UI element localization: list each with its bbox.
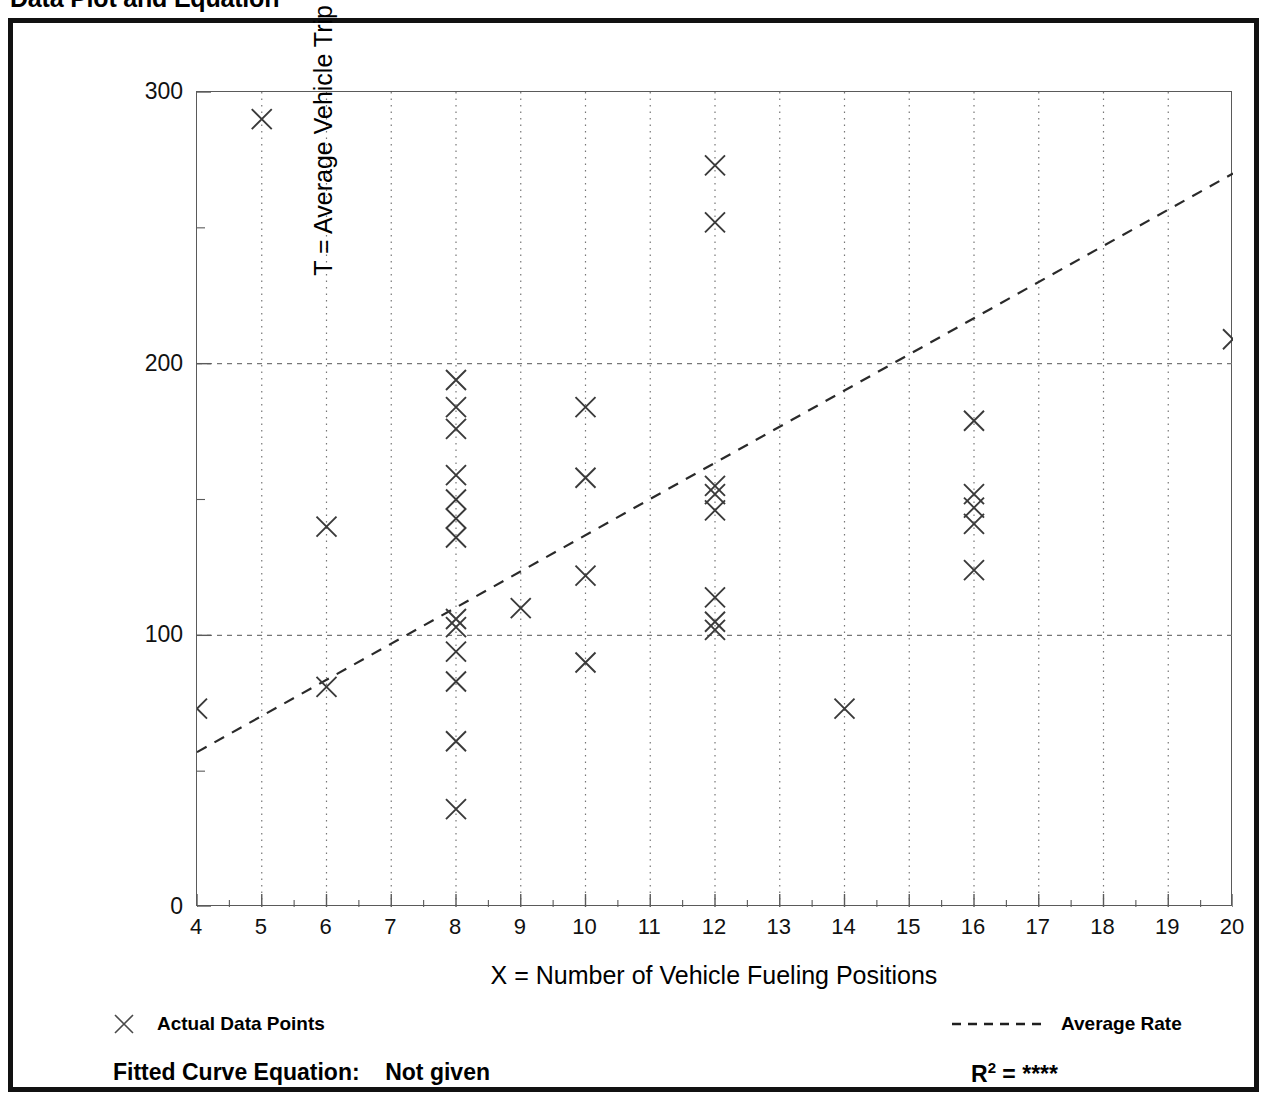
r-squared-value: R2 = ****	[971, 1059, 1058, 1088]
x-tick-label-14: 14	[831, 914, 855, 940]
x-marker-icon	[113, 1013, 135, 1035]
fitted-curve-equation: Fitted Curve Equation: Not given	[113, 1059, 490, 1086]
x-tick-label-5: 5	[255, 914, 267, 940]
x-tick-label-4: 4	[190, 914, 202, 940]
y-axis-title: T = Average Vehicle Trip Ends	[309, 0, 349, 516]
legend: Actual Data Points Average Rate	[13, 1013, 1254, 1047]
x-tick-label-17: 17	[1026, 914, 1050, 940]
y-axis-tick-labels: 0100200300	[113, 91, 183, 906]
r-squared-label: R	[971, 1061, 988, 1087]
y-tick-label-200: 200	[145, 350, 183, 377]
r-squared-equals: =	[1002, 1061, 1015, 1087]
r-squared-exponent: 2	[988, 1059, 996, 1076]
x-tick-label-8: 8	[449, 914, 461, 940]
y-tick-label-0: 0	[170, 893, 183, 920]
x-tick-label-11: 11	[638, 914, 661, 940]
x-tick-label-6: 6	[319, 914, 331, 940]
y-tick-label-100: 100	[145, 621, 183, 648]
footer: Fitted Curve Equation: Not given R2 = **…	[13, 1059, 1254, 1099]
fitted-curve-equation-value: Not given	[385, 1059, 490, 1085]
x-tick-label-12: 12	[702, 914, 726, 940]
x-tick-label-18: 18	[1090, 914, 1114, 940]
legend-item-actual-data-points: Actual Data Points	[113, 1013, 325, 1035]
x-tick-label-16: 16	[961, 914, 985, 940]
x-tick-label-7: 7	[384, 914, 396, 940]
fitted-curve-equation-label: Fitted Curve Equation:	[113, 1059, 360, 1085]
x-tick-label-19: 19	[1155, 914, 1179, 940]
legend-item-average-rate: Average Rate	[951, 1013, 1182, 1035]
axis-tick-marks	[197, 92, 1233, 907]
scatter-plot-svg	[197, 92, 1233, 907]
x-axis-title: X = Number of Vehicle Fueling Positions	[196, 961, 1232, 990]
y-tick-label-300: 300	[145, 78, 183, 105]
figure-frame: 0100200300 4567891011121314151617181920 …	[8, 18, 1259, 1092]
legend-label-average-rate: Average Rate	[1061, 1013, 1182, 1035]
dashed-line-icon	[951, 1018, 1043, 1030]
x-axis-tick-labels: 4567891011121314151617181920	[196, 914, 1232, 948]
x-tick-label-9: 9	[514, 914, 526, 940]
page-title: Data Plot and Equation	[10, 0, 279, 13]
vertical-gridlines	[262, 92, 1169, 907]
x-tick-label-13: 13	[767, 914, 791, 940]
x-tick-label-20: 20	[1220, 914, 1244, 940]
legend-label-actual-data-points: Actual Data Points	[157, 1013, 325, 1035]
x-tick-label-15: 15	[896, 914, 920, 940]
plot-area	[196, 91, 1232, 906]
r-squared-stars: ****	[1022, 1061, 1058, 1087]
x-tick-label-10: 10	[572, 914, 596, 940]
